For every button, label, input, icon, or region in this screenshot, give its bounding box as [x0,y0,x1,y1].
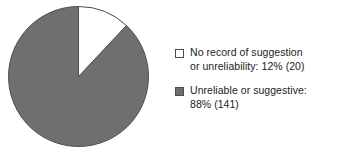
legend-item-unreliable[interactable]: Unreliable or suggestive: 88% (141) [175,84,335,111]
legend-label-unreliable: Unreliable or suggestive: 88% (141) [190,84,307,111]
pie-svg [8,6,149,147]
legend-item-no-record[interactable]: No record of suggestion or unreliability… [175,46,335,73]
chart-legend: No record of suggestion or unreliability… [175,46,335,111]
pie-chart-figure: No record of suggestion or unreliability… [0,0,337,151]
legend-label-no-record: No record of suggestion or unreliability… [190,46,305,73]
pie-chart-plot [8,6,149,147]
legend-swatch-no-record-icon [175,49,184,58]
legend-swatch-unreliable-icon [175,87,184,96]
